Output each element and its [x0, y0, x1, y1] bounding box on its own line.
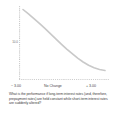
- plot-area: [19, 6, 109, 80]
- y-axis-label: 10.0: [1, 41, 18, 45]
- x-tick-label-left: − 3.00: [11, 84, 21, 88]
- series-line-total-return: [23, 10, 105, 71]
- x-tick-label-right: + 3.00: [86, 84, 96, 88]
- x-tick-label-center: No Change: [44, 84, 62, 88]
- chart-plot-svg: [19, 6, 109, 80]
- x-axis-tick-labels: − 3.00 No Change + 3.00: [8, 84, 112, 91]
- chart-figure: 10.0 − 3.00 No Change + 3.00 What is the…: [0, 0, 115, 114]
- figure-caption: What is the performance if long-term int…: [9, 92, 108, 106]
